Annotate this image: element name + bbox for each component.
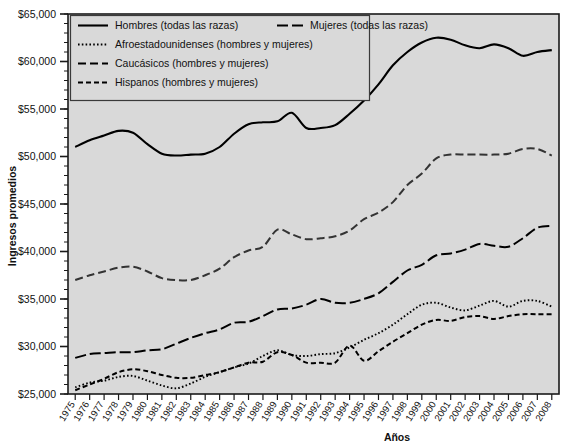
legend-label-0: Hombres (todas las razas) <box>115 19 238 31</box>
y-tick-label: $45,000 <box>18 198 56 210</box>
figure-container: $25,000$30,000$35,000$40,000$45,000$50,0… <box>0 0 571 448</box>
y-tick-label: $40,000 <box>18 245 56 257</box>
legend-label-4: Hispanos (hombres y mujeres) <box>115 76 258 88</box>
y-axis-title: Ingresos promedios <box>6 166 18 267</box>
y-tick-label: $65,000 <box>18 8 56 20</box>
x-axis-title: Años <box>384 431 410 443</box>
y-tick-label: $55,000 <box>18 103 56 115</box>
line-chart: $25,000$30,000$35,000$40,000$45,000$50,0… <box>0 0 571 448</box>
y-axis-tick-labels: $25,000$30,000$35,000$40,000$45,000$50,0… <box>18 8 56 400</box>
y-tick-label: $50,000 <box>18 150 56 162</box>
y-tick-label: $35,000 <box>18 293 56 305</box>
y-tick-label: $25,000 <box>18 388 56 400</box>
legend-label-2: Afroestadounidenses (hombres y mujeres) <box>115 38 313 50</box>
y-tick-label: $60,000 <box>18 55 56 67</box>
legend-label-3: Caucásicos (hombres y mujeres) <box>115 57 268 69</box>
y-tick-label: $30,000 <box>18 340 56 352</box>
legend-label-1: Mujeres (todas las razas) <box>310 19 428 31</box>
